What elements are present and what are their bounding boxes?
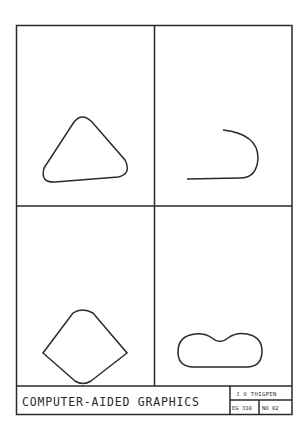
sheet-number: NO 02: [262, 405, 279, 411]
course-label: EG 310: [232, 405, 252, 411]
j-hook-curve-shape: [187, 130, 258, 179]
sheet-title: COMPUTER-AIDED GRAPHICS: [22, 395, 200, 409]
author-label: J O THIGPEN: [236, 391, 277, 397]
rounded-triangle-shape: [43, 117, 127, 182]
drawing-sheet: COMPUTER-AIDED GRAPHICS J O THIGPEN EG 3…: [0, 0, 307, 441]
peanut-outline-shape: [178, 334, 262, 368]
rounded-kite-shape: [43, 310, 127, 384]
